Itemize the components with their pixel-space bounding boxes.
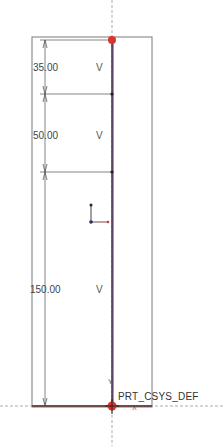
dimension-label-150[interactable]: 150.00 — [30, 285, 61, 295]
sketch-canvas[interactable]: 35.00 V 50.00 V 150.00 V PRT_CSYS_DEF Y … — [0, 0, 224, 446]
vertical-constraint-icon[interactable]: V — [96, 131, 103, 141]
csys-x-label: X — [132, 404, 137, 411]
dimension-label-35[interactable]: 35.00 — [33, 63, 58, 73]
construction-point[interactable] — [90, 204, 93, 207]
construction-point[interactable] — [107, 221, 109, 223]
vertical-constraint-icon[interactable]: V — [96, 63, 103, 73]
csys-label[interactable]: PRT_CSYS_DEF — [118, 391, 199, 402]
sketch-vertex[interactable] — [110, 170, 113, 173]
construction-point[interactable] — [89, 220, 93, 224]
vertical-constraint-icon[interactable]: V — [96, 285, 103, 295]
csys-y-label: Y — [108, 378, 113, 385]
sketch-vertex[interactable] — [110, 92, 113, 95]
dimension-label-50[interactable]: 50.00 — [33, 131, 58, 141]
endpoint-top[interactable] — [108, 36, 116, 44]
